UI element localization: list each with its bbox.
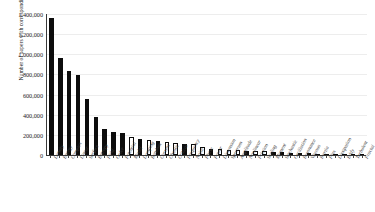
bar-slot xyxy=(154,14,163,155)
y-axis-tick-label: 1,400,000 xyxy=(18,11,43,18)
bar-slot xyxy=(145,14,154,155)
bar-slot xyxy=(189,14,198,155)
bars-layer xyxy=(47,14,367,155)
bar-slot xyxy=(287,14,296,155)
bar-slot xyxy=(242,14,251,155)
y-axis-tick-labels: 1,400,0001,200,0001,000,000800,000600,00… xyxy=(0,0,46,212)
y-axis-tick-label: 1,000,000 xyxy=(18,51,43,58)
bar-slot xyxy=(171,14,180,155)
bar-slot xyxy=(74,14,83,155)
bar-slot xyxy=(47,14,56,155)
bar-slot xyxy=(251,14,260,155)
bar-slot xyxy=(358,14,367,155)
bar-slot xyxy=(65,14,74,155)
y-axis-tick-label: 200,000 xyxy=(23,131,43,138)
bar-slot xyxy=(260,14,269,155)
bar-slot xyxy=(207,14,216,155)
bar-slot xyxy=(225,14,234,155)
y-axis-tick-label: 400,000 xyxy=(23,111,43,118)
bar-slot xyxy=(136,14,145,155)
bar-slot xyxy=(278,14,287,155)
bar-slot xyxy=(331,14,340,155)
bar-slot xyxy=(216,14,225,155)
y-axis-tick-label: 600,000 xyxy=(23,91,43,98)
bar-slot xyxy=(180,14,189,155)
bar-slot xyxy=(296,14,305,155)
bar-slot xyxy=(304,14,313,155)
bar xyxy=(67,71,71,155)
bar-slot xyxy=(127,14,136,155)
y-axis-tick-label: 1,200,000 xyxy=(18,31,43,38)
bar-slot xyxy=(109,14,118,155)
bar-slot xyxy=(322,14,331,155)
bar-slot xyxy=(313,14,322,155)
bar-slot xyxy=(349,14,358,155)
bar-slot xyxy=(162,14,171,155)
bar-slot xyxy=(269,14,278,155)
bar-slot xyxy=(100,14,109,155)
bar-slot xyxy=(233,14,242,155)
bar xyxy=(58,58,62,155)
bar-slot xyxy=(340,14,349,155)
y-axis-tick-label: 0 xyxy=(40,152,43,159)
y-axis-tick-label: 800,000 xyxy=(23,71,43,78)
bar xyxy=(49,18,53,155)
bar-slot xyxy=(198,14,207,155)
bar-slot xyxy=(83,14,92,155)
plot-area xyxy=(46,14,367,155)
bar-slot xyxy=(118,14,127,155)
bar-slot xyxy=(91,14,100,155)
bar-slot xyxy=(56,14,65,155)
x-axis-tick-labels: DensityEnergyComplexLinearSurfaceEntropy… xyxy=(46,157,366,212)
